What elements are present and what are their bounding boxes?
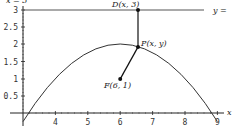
x-tick-7: 7 bbox=[150, 118, 155, 127]
y-tick-2-5: 2.5 bbox=[4, 23, 19, 32]
y-tick-2: 2 bbox=[13, 40, 18, 49]
x-tick-6: 6 bbox=[118, 118, 123, 127]
point-P-label: P(x, y) bbox=[140, 39, 167, 48]
parabola-diagram: 3 2.5 2 1.5 1 0.5 x = 3 4 5 6 7 8 9 bbox=[0, 0, 236, 128]
segment-PF bbox=[120, 47, 138, 79]
directrix-label: y = bbox=[212, 6, 227, 15]
y-tick-0-5: 0.5 bbox=[4, 92, 19, 101]
point-D-label: D(x, 3) bbox=[111, 0, 139, 9]
x-tick-5: 5 bbox=[85, 118, 90, 127]
y-tick-3: 3 bbox=[13, 6, 18, 15]
point-P bbox=[136, 45, 140, 49]
top-label: x = 3 bbox=[6, 0, 27, 5]
x-axis-label: x bbox=[227, 108, 232, 117]
point-F-label: F(6, 1) bbox=[103, 81, 131, 90]
x-axis: 4 5 6 7 8 9 x bbox=[10, 108, 232, 127]
y-axis: 3 2.5 2 1.5 1 0.5 bbox=[4, 6, 25, 126]
x-tick-4: 4 bbox=[53, 118, 58, 127]
y-tick-1-5: 1.5 bbox=[4, 58, 19, 67]
y-tick-1: 1 bbox=[13, 75, 18, 84]
x-tick-8: 8 bbox=[183, 118, 188, 127]
